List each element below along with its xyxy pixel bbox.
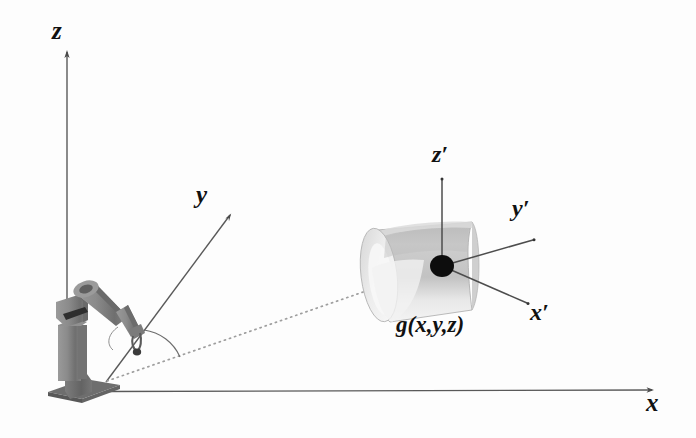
figure-root: z y x z′ y′ x′ g(x,y,z) (0, 0, 696, 438)
target-object-cylinder (355, 221, 479, 323)
axis-label-z-prime: z′ (432, 142, 448, 166)
angle-arc (144, 330, 180, 357)
diagram-canvas (0, 0, 696, 438)
axis-label-y-prime: y′ (512, 196, 529, 220)
object-origin-label: g(x,y,z) (396, 313, 464, 336)
axis-label-z: z (52, 18, 62, 43)
object-origin-dot (430, 255, 454, 277)
axis-label-x: x (646, 390, 659, 415)
world-axis-y (106, 213, 231, 382)
world-axis-x (106, 387, 654, 393)
axis-label-y: y (196, 182, 207, 207)
robot-manipulator (48, 277, 145, 403)
axis-label-x-prime: x′ (530, 300, 549, 324)
